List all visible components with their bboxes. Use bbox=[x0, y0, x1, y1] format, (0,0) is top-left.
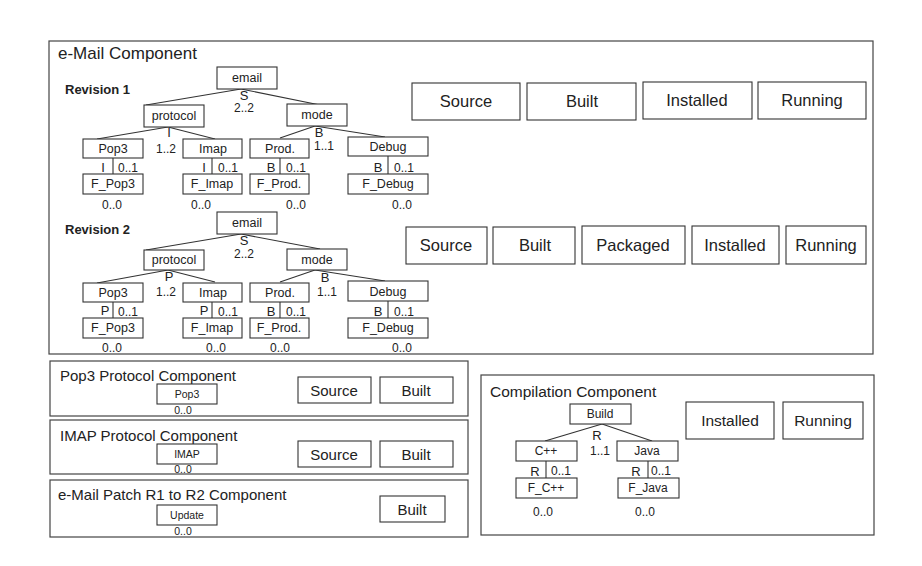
cardinality-label: 0..0 bbox=[174, 463, 192, 475]
node-email-label: email bbox=[232, 71, 262, 85]
component-diagram: e-Mail Component Revision 1 email S 2..2… bbox=[0, 0, 922, 566]
node-label: F_Prod. bbox=[257, 177, 301, 191]
patch-component-title: e-Mail Patch R1 to R2 Component bbox=[58, 486, 287, 503]
state-label: Source bbox=[310, 446, 358, 463]
relation-label: B bbox=[321, 270, 330, 285]
relation-label: B bbox=[374, 160, 383, 175]
edge bbox=[280, 126, 315, 138]
cardinality-label: 0..0 bbox=[392, 198, 412, 212]
cardinality-label: 0..1 bbox=[118, 161, 138, 175]
cardinality-label: 0..0 bbox=[102, 341, 122, 355]
edge bbox=[315, 126, 385, 137]
node-email-label: email bbox=[232, 216, 262, 230]
revision-1-states: Source Built Installed Running bbox=[412, 82, 866, 120]
node-protocol-label: protocol bbox=[152, 253, 196, 267]
node-label: IMAP bbox=[174, 448, 200, 460]
cardinality-label: 1..2 bbox=[156, 285, 176, 299]
cardinality-label: 0..1 bbox=[218, 161, 238, 175]
relation-label: B bbox=[315, 125, 324, 140]
cardinality-label: 0..1 bbox=[286, 161, 306, 175]
node-label: C++ bbox=[535, 444, 558, 458]
state-label: Installed bbox=[704, 236, 765, 254]
compilation-component: Compilation Component Build R 1..1 C++ R… bbox=[481, 375, 874, 535]
cardinality-label: 0..1 bbox=[551, 464, 571, 478]
cardinality-label: 0..0 bbox=[286, 198, 306, 212]
state-label: Built bbox=[397, 501, 427, 518]
cardinality-label: 2..2 bbox=[234, 247, 254, 261]
relation-label: S bbox=[240, 233, 249, 248]
state-label: Running bbox=[781, 91, 842, 109]
cardinality-label: 0..1 bbox=[651, 464, 671, 478]
cardinality-label: 0..0 bbox=[174, 404, 192, 416]
edge bbox=[146, 234, 241, 250]
email-component-title: e-Mail Component bbox=[58, 44, 197, 63]
cardinality-label: 1..1 bbox=[317, 285, 337, 299]
relation-label: R bbox=[530, 464, 539, 479]
node-label: Java bbox=[634, 444, 660, 458]
cardinality-label: 0..0 bbox=[270, 341, 290, 355]
relation-label: P bbox=[165, 269, 174, 284]
cardinality-label: 0..1 bbox=[118, 305, 138, 319]
node-label: F_Imap bbox=[191, 177, 233, 191]
patch-component: e-Mail Patch R1 to R2 Component Update 0… bbox=[50, 480, 468, 537]
state-label: Source bbox=[440, 92, 492, 110]
node-label: Pop3 bbox=[98, 286, 127, 300]
revision-1-label: Revision 1 bbox=[65, 82, 130, 97]
revision-2-tree: Revision 2 email S 2..2 protocol P 1..2 … bbox=[65, 212, 428, 355]
revision-1-tree: Revision 1 email S 2..2 protocol I 1..2 … bbox=[65, 67, 428, 212]
node-label: Update bbox=[170, 509, 204, 521]
pop3-component: Pop3 Protocol Component Pop3 0..0 Source… bbox=[50, 361, 468, 416]
cardinality-label: 0..0 bbox=[635, 505, 655, 519]
node-label: F_Prod. bbox=[257, 321, 301, 335]
cardinality-label: 1..2 bbox=[156, 142, 176, 156]
node-label: F_Pop3 bbox=[91, 321, 135, 335]
node-label: F_Pop3 bbox=[91, 177, 135, 191]
node-label: Debug bbox=[370, 140, 407, 154]
cardinality-label: 0..0 bbox=[392, 341, 412, 355]
state-label: Built bbox=[566, 92, 599, 110]
relation-label: B bbox=[267, 304, 276, 319]
relation-label: B bbox=[267, 160, 276, 175]
relation-label: I bbox=[202, 160, 206, 175]
state-label: Running bbox=[795, 236, 856, 254]
revision-2-label: Revision 2 bbox=[65, 222, 130, 237]
state-label: Built bbox=[519, 236, 552, 254]
state-label: Source bbox=[310, 382, 358, 399]
edge bbox=[168, 270, 215, 282]
node-label: F_Debug bbox=[362, 321, 413, 335]
cardinality-label: 0..1 bbox=[394, 161, 414, 175]
edge bbox=[602, 424, 652, 441]
relation-label: R bbox=[592, 428, 601, 443]
cardinality-label: 1..1 bbox=[314, 139, 334, 153]
state-label: Running bbox=[794, 412, 852, 429]
edge bbox=[168, 127, 215, 139]
cardinality-label: 0..1 bbox=[218, 305, 238, 319]
node-label: Pop3 bbox=[98, 142, 127, 156]
node-mode-label: mode bbox=[301, 253, 332, 267]
state-label: Built bbox=[401, 382, 431, 399]
edge bbox=[97, 270, 168, 283]
compilation-component-title: Compilation Component bbox=[490, 383, 657, 400]
relation-label: B bbox=[374, 304, 383, 319]
relation-label: I bbox=[101, 160, 105, 175]
edge bbox=[280, 270, 315, 282]
edge bbox=[97, 127, 168, 139]
relation-label: P bbox=[200, 303, 209, 318]
cardinality-label: 0..0 bbox=[174, 525, 192, 537]
node-mode-label: mode bbox=[301, 108, 332, 122]
node-label: F_C++ bbox=[528, 481, 565, 495]
cardinality-label: 0..0 bbox=[533, 505, 553, 519]
pop3-component-title: Pop3 Protocol Component bbox=[60, 367, 237, 384]
node-label: Build bbox=[587, 407, 614, 421]
cardinality-label: 0..0 bbox=[102, 198, 122, 212]
state-label: Installed bbox=[701, 412, 759, 429]
cardinality-label: 0..0 bbox=[206, 341, 226, 355]
node-label: Prod. bbox=[265, 286, 295, 300]
cardinality-label: 0..0 bbox=[191, 198, 211, 212]
node-label: F_Java bbox=[628, 481, 668, 495]
node-label: F_Debug bbox=[362, 177, 413, 191]
email-component: e-Mail Component Revision 1 email S 2..2… bbox=[49, 41, 873, 355]
state-label: Source bbox=[420, 236, 472, 254]
state-label: Built bbox=[401, 446, 431, 463]
cardinality-label: 2..2 bbox=[234, 101, 254, 115]
